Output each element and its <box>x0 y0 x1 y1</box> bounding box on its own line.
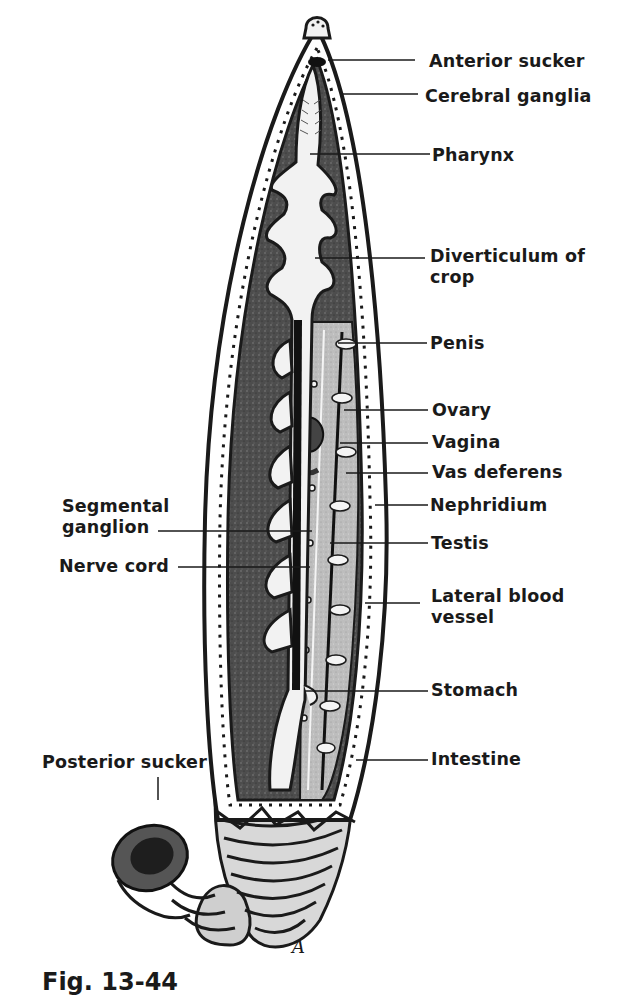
label-nephridium: Nephridium <box>430 495 547 516</box>
label-nerve-cord: Nerve cord <box>59 556 169 577</box>
posterior-sucker-disc <box>103 815 196 918</box>
artist-monogram: A <box>290 936 305 957</box>
label-lateral-blood-vessel: Lateral blood vessel <box>431 586 564 628</box>
label-line-1: Segmental <box>62 496 170 517</box>
label-anterior-sucker: Anterior sucker <box>429 51 585 72</box>
label-vas-deferens: Vas deferens <box>432 462 563 483</box>
label-segmental-ganglion: Segmental ganglion <box>62 496 170 538</box>
label-line-1: Lateral blood <box>431 586 564 607</box>
figure-caption: Fig. 13-44 <box>42 968 178 996</box>
label-cerebral-ganglia: Cerebral ganglia <box>425 86 592 107</box>
label-line-2: vessel <box>431 607 564 628</box>
label-stomach: Stomach <box>431 680 518 701</box>
label-ovary: Ovary <box>432 400 491 421</box>
label-intestine: Intestine <box>431 749 521 770</box>
label-penis: Penis <box>430 333 485 354</box>
label-vagina: Vagina <box>432 432 500 453</box>
label-pharynx: Pharynx <box>432 145 514 166</box>
label-line-1: Diverticulum of <box>430 246 585 267</box>
label-diverticulum-of-crop: Diverticulum of crop <box>430 246 585 288</box>
label-testis: Testis <box>431 533 489 554</box>
label-line-2: crop <box>430 267 585 288</box>
label-posterior-sucker: Posterior sucker <box>42 752 207 773</box>
label-line-2: ganglion <box>62 517 170 538</box>
